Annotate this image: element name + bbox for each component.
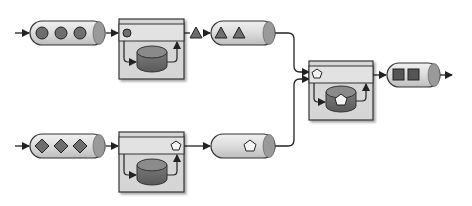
circle-item (36, 27, 48, 39)
datastore-icon (137, 46, 167, 72)
input-queue-top (30, 21, 105, 45)
pipeline-diagram (0, 0, 472, 206)
output-queue-top (211, 21, 275, 45)
processor-bottom (119, 132, 184, 192)
output-queue-bottom (211, 134, 275, 158)
processor-merge (309, 61, 373, 120)
datastore-icon (137, 159, 167, 185)
triangle-item-emitted (190, 27, 202, 38)
edge-top-output-to-merge (275, 33, 309, 72)
queue-end-cap (93, 135, 105, 158)
circle-item (55, 27, 67, 39)
queue-end-cap (428, 64, 440, 87)
input-queue-bottom (30, 134, 105, 158)
square-item (408, 69, 419, 80)
circle-item (74, 27, 86, 39)
edge-bottom-output-to-merge (275, 79, 309, 146)
square-item (393, 69, 404, 80)
queue-end-cap (93, 22, 105, 45)
processor-top (119, 19, 184, 79)
output-queue-final (387, 63, 440, 87)
datastore-icon (326, 86, 356, 112)
queue-end-cap (263, 135, 275, 158)
current-circle-item (123, 29, 131, 37)
queue-end-cap (263, 22, 275, 45)
connectors (15, 33, 452, 146)
